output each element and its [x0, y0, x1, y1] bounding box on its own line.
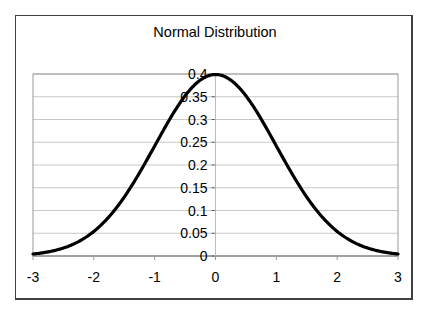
y-tick-label: 0.15 [180, 180, 207, 196]
x-tick-labels: -3-2-10123 [27, 269, 402, 285]
axes [33, 74, 398, 260]
y-tick-label: 0.2 [188, 157, 208, 173]
y-tick-label: 0.1 [188, 203, 208, 219]
y-tick-label: 0 [200, 248, 208, 264]
x-tick-label: 1 [272, 269, 280, 285]
x-tick-label: -3 [27, 269, 40, 285]
x-tick-label: 2 [333, 269, 341, 285]
x-tick-label: 3 [394, 269, 402, 285]
y-tick-label: 0.25 [180, 134, 207, 150]
y-tick-label: 0.4 [188, 66, 208, 82]
y-tick-label: 0.05 [180, 225, 207, 241]
x-tick-label: -1 [148, 269, 161, 285]
plot-area: 00.050.10.150.20.250.30.350.4 -3-2-10123 [0, 0, 430, 314]
x-tick-label: 0 [212, 269, 220, 285]
x-tick-label: -2 [88, 269, 101, 285]
y-tick-label: 0.3 [188, 112, 208, 128]
